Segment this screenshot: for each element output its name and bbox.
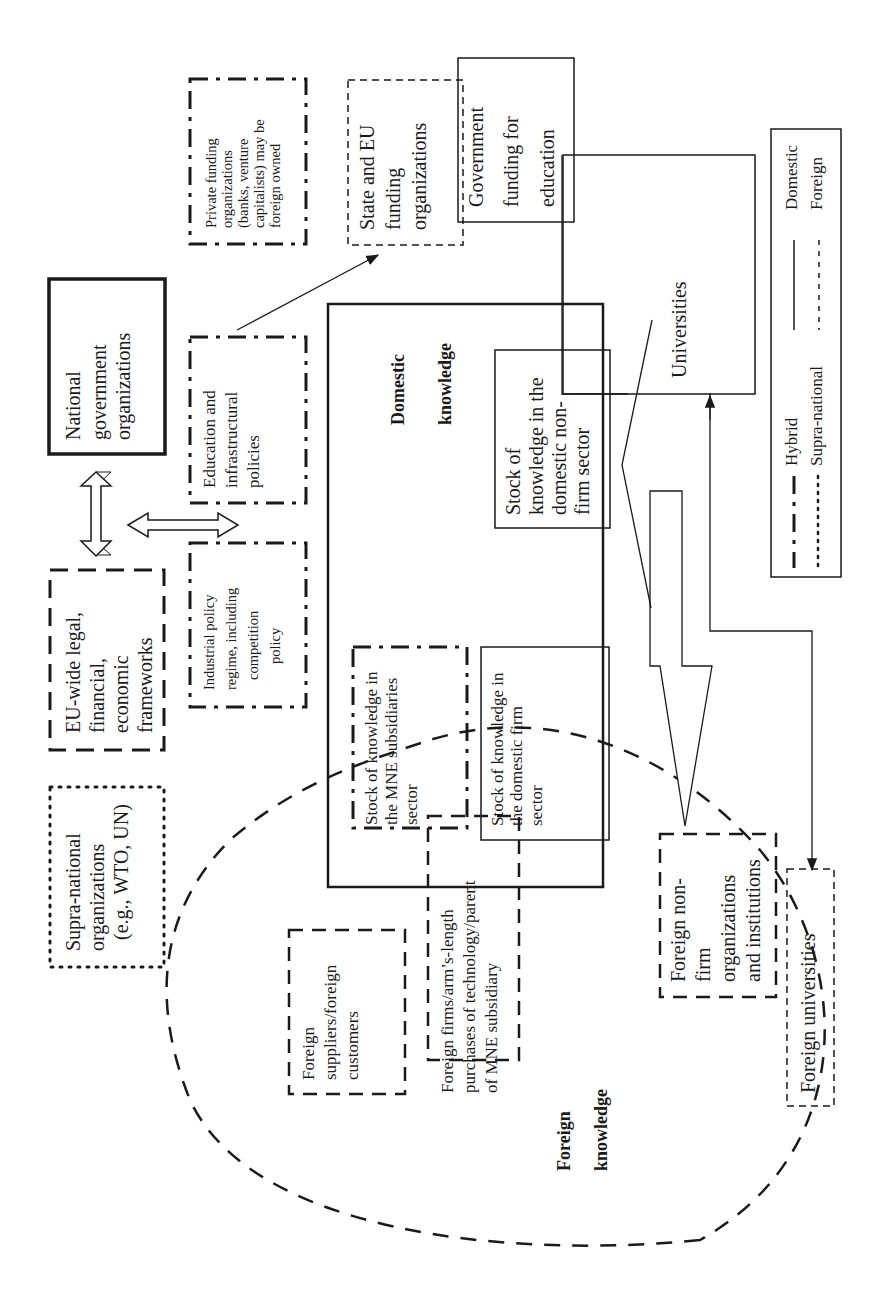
foreign-nonfirm-text-1: Foreign non- [667,878,690,982]
mne-text-3: sector [402,784,421,825]
nonfirm-text-1: Stock of [502,447,524,515]
edu-policy-text-2: infrastructural [222,391,241,488]
legend-supra-label: Supra-national [807,366,826,466]
universities-box [563,155,755,394]
state-text-3: organizations [408,122,431,230]
private-text-4: capitalists) may be [251,119,268,228]
foreign-knowledge-label-1: Foreign [554,1111,574,1171]
foreign-firms-text-2: purchases of technology/parent [460,880,479,1093]
suppliers-text-3: customers [343,1011,362,1080]
supra-text-2: organizations [86,843,109,951]
private-text-3: (banks, venture [235,139,252,228]
legend-domestic-label: Domestic [782,144,801,210]
wedge-arrow-into-domestic [622,320,652,608]
double-arrow-policies [128,513,238,537]
foreign-knowledge-label-2: knowledge [591,1089,611,1171]
domestic-knowledge-label-2: knowledge [435,343,455,425]
national-gov-text-2: government [88,344,111,440]
nonfirm-text-4: firm sector [571,427,593,515]
universities-text: Universities [668,281,690,378]
edu-policy-text-3: policies [244,435,263,488]
suppliers-text-1: Foreign [299,1027,318,1080]
nonfirm-text-2: knowledge in the [525,377,548,515]
domfirm-text-2: the domestic firm [507,706,526,826]
arrow-education-to-funding [237,255,378,330]
eu-text-4: frameworks [134,637,156,733]
double-arrow-national-eu-shape [81,472,111,556]
mne-text-2: the MNE subsidiaries [382,678,401,825]
private-text-5: foreign owned [267,143,283,228]
national-gov-text-3: organizations [112,332,135,440]
suppliers-text-2: suppliers/foreign [321,964,340,1080]
state-text-1: State and EU [356,124,378,230]
large-arrow-to-foreign-nonfirm [650,491,712,826]
domfirm-text-3: sector [527,785,546,826]
foreign-firms-text-1: Foreign firms/arm’s-length [438,909,457,1093]
state-text-2: funding [382,168,405,230]
edu-policy-text-1: Education and [200,390,219,488]
foreign-universities-text: Foreign universities [797,933,820,1093]
supra-text-3: (e.g., WTO, UN) [110,804,133,940]
legend-foreign-label: Foreign [807,157,826,210]
ind-policy-text-4: policy [267,627,283,664]
eu-text-2: financial, [86,658,108,733]
ind-policy-text-3: competition [245,610,261,680]
domestic-knowledge-label-1: Domestic [388,354,408,425]
eu-text-1: EU-wide legal, [62,612,85,733]
gov-edu-text-1: Government [465,107,487,207]
private-text-1: Private funding [203,138,219,228]
domfirm-text-1: Stock of knowledge in [488,672,507,826]
foreign-nonfirm-text-3: organizations [717,874,740,982]
mne-text-1: Stock of knowledge in [362,671,381,825]
ind-policy-text-2: regime, including [223,588,239,690]
gov-edu-text-2: funding for [500,116,523,207]
eu-text-3: economic [110,655,132,733]
foreign-nonfirm-text-4: and institutions [742,859,764,982]
private-text-2: organizations [219,150,235,228]
legend-hybrid-label: Hybrid [782,417,801,466]
foreign-nonfirm-text-2: firm [692,947,714,982]
nonfirm-text-3: domestic non- [548,401,570,515]
knowledge-flow-diagram: National government organizations EU-wid… [0,0,896,1300]
national-gov-text: National [62,371,84,440]
supra-text-1: Supra-national [62,833,85,951]
gov-edu-text-3: education [536,129,558,207]
foreign-firms-text-3: of MNE subsidiary [482,962,501,1093]
ind-policy-text-1: Industrial policy [201,594,217,690]
